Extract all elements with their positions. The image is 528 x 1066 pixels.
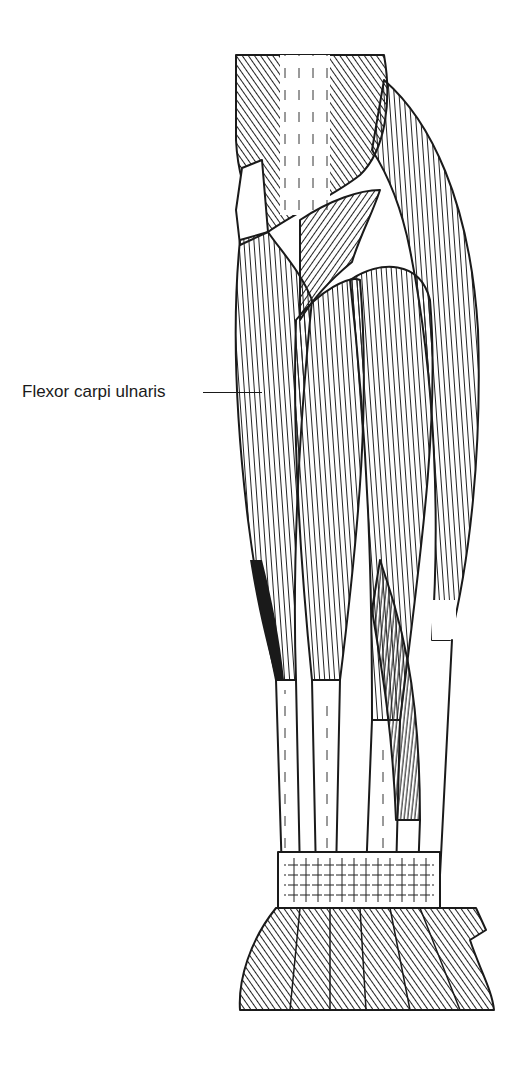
forearm-muscle-illustration xyxy=(0,0,528,1066)
leader-line-flexor-carpi-ulnaris xyxy=(203,392,262,393)
hand-base xyxy=(240,908,494,1010)
medial-epicondyle xyxy=(236,160,268,245)
palmaris-longus xyxy=(295,279,364,680)
tendons xyxy=(276,640,452,875)
label-flexor-carpi-ulnaris: Flexor carpi ulnaris xyxy=(22,383,166,400)
